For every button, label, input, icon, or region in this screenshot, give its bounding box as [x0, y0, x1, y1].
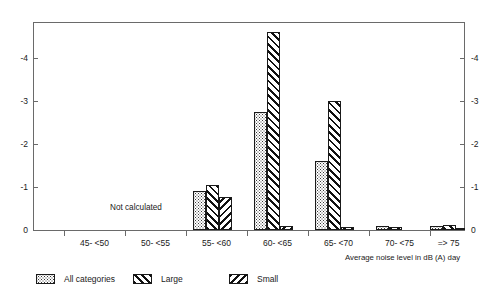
y-tick-mark-left-4	[33, 58, 38, 59]
legend-entry-small: Small	[229, 272, 278, 286]
y-tick-label-left-2: -2	[6, 140, 28, 149]
x-tick-mark-0	[64, 231, 65, 236]
legend-entry-large: Large	[133, 272, 183, 286]
y-tick-mark-left-3	[33, 101, 38, 102]
bar-large-65-70	[328, 101, 341, 230]
x-tick-label-60-65: 60- <65	[247, 238, 308, 248]
y-tick-label-right-2: -2	[471, 140, 493, 149]
legend-label-small: Small	[257, 274, 278, 284]
bar-all-categories-55-60	[193, 191, 206, 230]
x-tick-label-65-70: 65- <70	[308, 238, 369, 248]
y-tick-label-left-3: -3	[6, 97, 28, 106]
x-tick-label-50-55: 50- <55	[125, 238, 186, 248]
y-tick-label-left-0: 0	[6, 226, 28, 235]
x-tick-label-45-50: 45- <50	[64, 238, 125, 248]
x-tick-mark-5	[369, 231, 370, 236]
x-tick-mark-3	[247, 231, 248, 236]
y-tick-mark-right-2	[460, 144, 465, 145]
dots-swatch-icon	[36, 274, 55, 284]
x-tick-label-55-60: 55- <60	[186, 238, 247, 248]
y-tick-mark-right-4	[460, 58, 465, 59]
legend-label-all-categories: All categories	[64, 274, 115, 284]
bar-small-65-70	[341, 227, 354, 230]
bar-all-categories-65-70	[315, 161, 328, 230]
y-tick-label-left-4: -4	[6, 54, 28, 63]
y-tick-label-right-4: -4	[471, 54, 493, 63]
bar-all-categories-60-65	[254, 112, 267, 230]
legend-label-large: Large	[161, 274, 183, 284]
x-tick-label-gte-75: => 75	[418, 238, 479, 248]
y-tick-label-right-1: -1	[471, 183, 493, 192]
y-tick-label-left-1: -1	[6, 183, 28, 192]
chart-legend: All categories Large Small	[0, 268, 500, 294]
y-tick-label-right-3: -3	[471, 97, 493, 106]
bar-small-55-60	[219, 197, 232, 230]
bar-small-gte-75	[456, 228, 465, 230]
plot-area	[33, 22, 465, 231]
bar-large-70-75	[389, 227, 402, 230]
bar-large-55-60	[206, 185, 219, 230]
backward-hatch-swatch-icon	[229, 274, 248, 284]
x-tick-mark-6	[430, 231, 431, 236]
y-tick-mark-left-1	[33, 187, 38, 188]
not-calculated-annotation: Not calculated	[110, 203, 162, 213]
y-tick-mark-right-3	[460, 101, 465, 102]
bar-all-categories-gte-75	[430, 226, 443, 230]
y-tick-mark-left-2	[33, 144, 38, 145]
y-tick-mark-right-1	[460, 187, 465, 188]
forward-hatch-swatch-icon	[133, 274, 152, 284]
x-tick-mark-1	[125, 231, 126, 236]
y-tick-label-right-0: 0	[471, 226, 493, 235]
noise-level-bar-chart: -4 -3 -2 -1 0 -4 -3 -2 -1 0 45- <50 50- …	[0, 0, 500, 300]
bar-small-60-65	[280, 226, 293, 230]
x-tick-mark-4	[308, 231, 309, 236]
x-tick-mark-2	[186, 231, 187, 236]
bar-large-60-65	[267, 32, 280, 230]
x-axis-title: Average noise level in dB (A) day	[345, 253, 460, 262]
legend-entry-all-categories: All categories	[36, 272, 115, 286]
bar-all-categories-70-75	[376, 226, 389, 230]
bar-large-gte-75	[443, 225, 456, 230]
